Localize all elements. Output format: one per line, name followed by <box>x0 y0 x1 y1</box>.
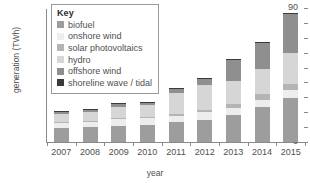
bar-segment-onshore-wind <box>197 112 212 119</box>
bar-segment-offshore-wind <box>140 102 155 105</box>
bar-segment-shoreline-wave-tidal <box>283 13 298 14</box>
legend-swatch-icon <box>57 68 64 75</box>
legend-item-label: hydro <box>68 55 91 65</box>
x-tick-mark <box>305 142 306 146</box>
x-tick-mark <box>276 142 277 146</box>
bar-segment-onshore-wind <box>283 90 298 97</box>
bar-segment-onshore-wind <box>255 100 270 108</box>
bar-segment-hydro <box>140 105 155 117</box>
x-tick-mark <box>162 142 163 146</box>
bar-segment-hydro <box>197 85 212 110</box>
bar-2008[interactable] <box>83 109 98 143</box>
bar-segment-hydro <box>283 53 298 84</box>
y-tick-mark <box>304 68 308 69</box>
legend-item-label: shoreline wave / tidal <box>68 78 152 88</box>
legend-item-shoreline-wave-tidal[interactable]: shoreline wave / tidal <box>57 77 152 89</box>
y-axis-label: generation (TWh) <box>11 0 21 120</box>
bar-segment-onshore-wind <box>169 116 184 123</box>
bar-segment-solar-photovoltaics <box>255 94 270 99</box>
y-tick-mark <box>304 38 308 39</box>
bar-segment-hydro <box>83 112 98 121</box>
legend: Key biofuelonshore windsolar photovoltai… <box>51 4 159 94</box>
x-tick-mark <box>47 142 48 146</box>
chart-figure: generation (TWh) year 010203040506070809… <box>0 0 310 183</box>
bar-segment-solar-photovoltaics <box>169 114 184 115</box>
bar-2007[interactable] <box>54 111 69 142</box>
bar-segment-offshore-wind <box>226 59 241 81</box>
legend-item-label: solar photovoltaics <box>68 43 143 53</box>
bar-segment-offshore-wind <box>54 112 69 115</box>
bar-2009[interactable] <box>111 103 126 142</box>
legend-item-offshore-wind[interactable]: offshore wind <box>57 65 152 77</box>
x-tick-mark <box>76 142 77 146</box>
bar-segment-onshore-wind <box>140 118 155 125</box>
legend-swatch-icon <box>57 56 64 63</box>
x-axis-label: year <box>0 168 310 178</box>
bar-segment-biofuel <box>197 120 212 142</box>
bar-segment-biofuel <box>255 107 270 142</box>
legend-item-hydro[interactable]: hydro <box>57 54 152 66</box>
legend-title: Key <box>57 8 152 18</box>
bar-segment-biofuel <box>226 115 241 142</box>
bar-2011[interactable] <box>169 88 184 142</box>
legend-swatch-icon <box>57 21 64 28</box>
y-tick-mark <box>304 53 308 54</box>
x-tick-mark <box>248 142 249 146</box>
bar-segment-offshore-wind <box>169 89 184 93</box>
y-tick-mark <box>304 82 308 83</box>
bar-segment-biofuel <box>283 98 298 142</box>
y-tick-mark <box>304 23 308 24</box>
bar-segment-biofuel <box>54 128 69 142</box>
bar-segment-biofuel <box>140 125 155 142</box>
y-tick-label: 90 <box>288 2 298 12</box>
legend-swatch-icon <box>57 79 64 86</box>
bar-segment-hydro <box>111 107 126 118</box>
y-tick-mark <box>304 8 308 9</box>
bar-segment-hydro <box>255 69 270 94</box>
bar-segment-onshore-wind <box>111 118 126 125</box>
legend-item-label: offshore wind <box>68 66 121 76</box>
bar-segment-hydro <box>54 114 69 121</box>
legend-item-solar-photovoltaics[interactable]: solar photovoltaics <box>57 42 152 54</box>
x-tick-mark <box>133 142 134 146</box>
bar-segment-offshore-wind <box>283 14 298 53</box>
legend-swatch-icon <box>57 44 64 51</box>
y-tick-mark <box>304 112 308 113</box>
legend-item-label: onshore wind <box>68 31 122 41</box>
y-tick-mark <box>304 127 308 128</box>
bar-segment-offshore-wind <box>83 109 98 112</box>
bar-segment-offshore-wind <box>197 78 212 84</box>
x-tick-mark <box>190 142 191 146</box>
bar-segment-solar-photovoltaics <box>111 118 126 119</box>
bar-segment-solar-photovoltaics <box>140 117 155 118</box>
legend-rows: biofuelonshore windsolar photovoltaicshy… <box>57 19 152 89</box>
bar-segment-solar-photovoltaics <box>197 110 212 112</box>
bar-2013[interactable] <box>226 59 241 142</box>
bar-segment-hydro <box>226 81 241 105</box>
legend-item-label: biofuel <box>68 20 95 30</box>
x-tick-mark <box>219 142 220 146</box>
bar-segment-hydro <box>169 93 184 114</box>
x-tick-label: 2015 <box>274 147 308 157</box>
bar-segment-offshore-wind <box>255 43 270 70</box>
bar-segment-onshore-wind <box>54 122 69 128</box>
x-tick-mark <box>104 142 105 146</box>
bar-segment-solar-photovoltaics <box>283 84 298 90</box>
bar-2015[interactable] <box>283 13 298 142</box>
legend-item-onshore-wind[interactable]: onshore wind <box>57 31 152 43</box>
legend-swatch-icon <box>57 33 64 40</box>
bar-segment-biofuel <box>169 122 184 142</box>
bar-segment-onshore-wind <box>226 108 241 115</box>
y-tick-mark <box>304 97 308 98</box>
bar-2014[interactable] <box>255 42 270 142</box>
bar-segment-solar-photovoltaics <box>226 104 241 108</box>
bar-2010[interactable] <box>140 102 155 142</box>
bar-2012[interactable] <box>197 78 212 142</box>
bar-segment-onshore-wind <box>83 121 98 127</box>
bar-segment-biofuel <box>111 126 126 142</box>
bar-segment-biofuel <box>83 127 98 142</box>
bar-segment-offshore-wind <box>111 104 126 107</box>
legend-item-biofuel[interactable]: biofuel <box>57 19 152 31</box>
